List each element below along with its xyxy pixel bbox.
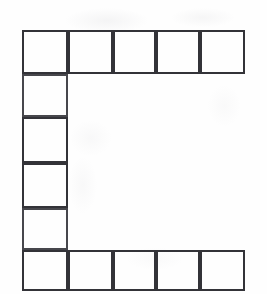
grid-cell-r4c1 (22, 163, 68, 208)
grid-cell-r6c1 (22, 250, 68, 291)
grid-cell-r2c1 (22, 74, 68, 117)
grid-cell-r6c5 (200, 250, 245, 291)
grid-cell-r1c5 (200, 30, 245, 74)
grid-figure (0, 0, 267, 294)
grid-cell-r5c1 (22, 208, 68, 250)
grid-cell-r1c1 (22, 30, 68, 74)
grid-cell-r6c4 (156, 250, 200, 291)
grid-cell-r1c2 (68, 30, 113, 74)
figure-canvas (0, 0, 267, 294)
grid-cell-r3c1 (22, 117, 68, 163)
grid-cell-r6c2 (68, 250, 113, 291)
grid-cell-r1c3 (113, 30, 156, 74)
grid-cell-r6c3 (113, 250, 156, 291)
grid-cell-r1c4 (156, 30, 200, 74)
